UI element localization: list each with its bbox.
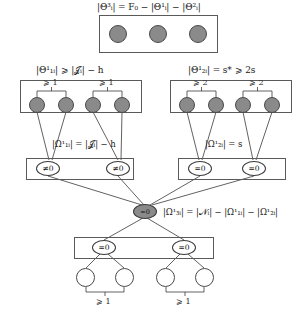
omega-right-node-2: =0 bbox=[242, 161, 266, 176]
level2-left-node-2 bbox=[58, 97, 74, 113]
top-node-1 bbox=[109, 25, 127, 43]
omega-right-node-1-label: =0 bbox=[194, 164, 205, 173]
leaf-node-1 bbox=[76, 268, 95, 287]
level2-right-formula-label: |Θ¹₂ᵢ| = s* ⩾ 2s bbox=[188, 65, 255, 75]
level2-right-node-1 bbox=[179, 97, 195, 113]
omega-left-formula-label: |Ω¹₁ᵢ| = |𝒥ᵢ| − h bbox=[52, 139, 116, 150]
leaf-node-3 bbox=[156, 268, 175, 287]
level2-left-bracket-a-label: ⩾ 1 bbox=[43, 78, 58, 87]
level2-left-node-4 bbox=[114, 97, 130, 113]
top-node-3 bbox=[189, 25, 207, 43]
level2-right-node-3 bbox=[235, 97, 251, 113]
level2-left-node-1 bbox=[29, 97, 45, 113]
center-node: =0 bbox=[133, 204, 157, 219]
bottom-bracket-a-label: ⩾ 1 bbox=[96, 297, 111, 306]
level2-right-node-2 bbox=[208, 97, 224, 113]
leaf-node-2 bbox=[115, 268, 134, 287]
omega-left-node-2: ≠0 bbox=[106, 161, 130, 176]
level2-left-bracket-b-label: ⩾ 1 bbox=[99, 78, 114, 87]
level2-right-bracket-b-label: ⩾ 2 bbox=[249, 78, 264, 87]
omega-right-formula-label: |Ω¹₂ᵢ| = s bbox=[205, 139, 242, 149]
top-formula-label: |Θ³ᵢ| = F₀ − |Θ¹ᵢ| − |Θ²ᵢ| bbox=[97, 2, 201, 12]
level2-left-node-3 bbox=[85, 97, 101, 113]
omega-left-node-2-label: ≠0 bbox=[112, 164, 123, 173]
top-node-2 bbox=[149, 25, 167, 43]
level2-left-formula-label: |Θ¹₁ᵢ| ⩾ |𝒥ᵢ| − h bbox=[36, 65, 103, 76]
omega-left-node-1-label: ≠0 bbox=[42, 164, 53, 173]
bottom-node-2: =0 bbox=[172, 240, 196, 255]
bottom-node-1-label: =0 bbox=[98, 243, 109, 252]
omega-right-node-2-label: =0 bbox=[248, 164, 259, 173]
center-node-label: =0 bbox=[140, 208, 150, 216]
center-formula-label: |Ω¹₃ᵢ| = |𝒩ᵢ| − |Ω¹₁ᵢ| − |Ω¹₂ᵢ| bbox=[163, 207, 278, 218]
figure-canvas: |Θ³ᵢ| = F₀ − |Θ¹ᵢ| − |Θ²ᵢ| |Θ¹₁ᵢ| ⩾ |𝒥ᵢ|… bbox=[0, 0, 302, 309]
omega-right-node-1: =0 bbox=[188, 161, 212, 176]
bottom-node-1: =0 bbox=[92, 240, 116, 255]
bottom-node-2-label: =0 bbox=[178, 243, 189, 252]
bottom-bracket-b-label: ⩾ 1 bbox=[176, 297, 191, 306]
level2-right-node-4 bbox=[264, 97, 280, 113]
omega-left-node-1: ≠0 bbox=[36, 161, 60, 176]
leaf-node-4 bbox=[195, 268, 214, 287]
level2-right-bracket-a-label: ⩾ 2 bbox=[193, 78, 208, 87]
